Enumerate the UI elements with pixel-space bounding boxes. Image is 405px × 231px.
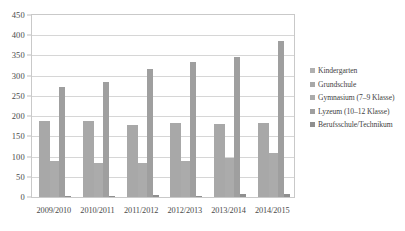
legend-item[interactable]: Gymnasium (7–9 Klasse): [310, 91, 405, 105]
y-axis-tick-label: 400: [12, 31, 25, 40]
legend-item[interactable]: Grundschule: [310, 78, 405, 92]
bar: [284, 194, 290, 197]
bar: [170, 123, 181, 197]
legend-item[interactable]: Lyzeum (10–12 Klasse): [310, 105, 405, 119]
y-axis-tick-label: 450: [12, 11, 25, 20]
x-axis-tick-label: 2013/2014: [207, 199, 251, 221]
bar: [39, 121, 50, 197]
bar: [258, 123, 269, 197]
bar: [234, 57, 240, 197]
legend-item-label: Gymnasium (7–9 Klasse): [318, 93, 395, 102]
bar: [94, 163, 103, 197]
bar-group: [32, 15, 76, 197]
legend-item[interactable]: Berufsschule/Technikum: [310, 118, 405, 132]
bar: [240, 194, 246, 197]
bar-group: [119, 15, 163, 197]
bar: [109, 196, 115, 197]
bar-chart: 050100150200250300350400450 2009/2010201…: [0, 0, 405, 231]
y-axis-tick-label: 350: [12, 51, 25, 60]
legend-item-label: Grundschule: [318, 80, 356, 89]
x-axis-tick-label: 2010/2011: [76, 199, 120, 221]
x-axis-tick-label: 2009/2010: [32, 199, 76, 221]
bar-group: [250, 15, 294, 197]
legend-swatch-icon: [310, 95, 315, 100]
bar-series-layer: [32, 15, 294, 197]
y-axis-tick-label: 300: [12, 71, 25, 80]
bar: [147, 69, 153, 197]
y-axis-tick-label: 150: [12, 132, 25, 141]
bar: [278, 41, 284, 197]
legend-swatch-icon: [310, 122, 315, 127]
legend-item[interactable]: Kindergarten: [310, 64, 405, 78]
y-axis-tick-label: 100: [12, 152, 25, 161]
x-axis-tick-label: 2012/2013: [163, 199, 207, 221]
bar: [50, 161, 59, 197]
bar: [225, 158, 234, 197]
bar-group: [163, 15, 207, 197]
legend-swatch-icon: [310, 68, 315, 73]
bar: [65, 196, 71, 197]
bar: [103, 82, 109, 197]
legend-item-label: Kindergarten: [318, 66, 357, 75]
legend-swatch-icon: [310, 82, 315, 87]
bar: [153, 195, 159, 197]
bar: [181, 161, 190, 197]
legend-swatch-icon: [310, 109, 315, 114]
x-axis-tick-label: 2011/2012: [119, 199, 163, 221]
chart-legend: KindergartenGrundschuleGymnasium (7–9 Kl…: [310, 64, 405, 132]
bar: [269, 153, 278, 197]
y-axis-tick-label: 200: [12, 112, 25, 121]
bar: [190, 62, 196, 197]
bar: [83, 121, 94, 197]
x-axis: 2009/20102010/20112011/20122012/20132013…: [32, 199, 294, 221]
y-axis-tick-label: 250: [12, 91, 25, 100]
bar: [214, 124, 225, 197]
legend-item-label: Berufsschule/Technikum: [318, 120, 393, 129]
bar: [127, 125, 138, 197]
bar: [59, 87, 65, 197]
bar: [138, 163, 147, 197]
bar-group: [207, 15, 251, 197]
x-axis-tick-label: 2014/2015: [250, 199, 294, 221]
y-axis-tick-label: 50: [16, 172, 25, 181]
legend-item-label: Lyzeum (10–12 Klasse): [318, 107, 390, 116]
bar: [196, 196, 202, 197]
y-axis-tick-label: 0: [21, 193, 25, 202]
bar-group: [76, 15, 120, 197]
y-axis: 050100150200250300350400450: [0, 14, 29, 198]
